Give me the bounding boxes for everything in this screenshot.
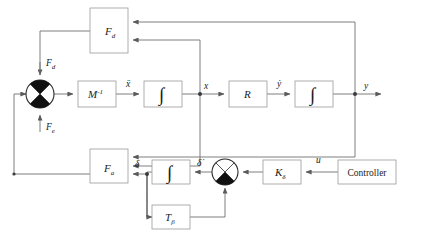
summing-junction-left[interactable] [26,80,54,108]
block-diagram-svg: Fd M-1 ∫ R ∫ [0,0,424,243]
node-dot-x [198,92,202,96]
junction-layer [26,80,238,185]
block-k-delta[interactable]: Kδ [263,160,301,184]
block-t-beta[interactable]: Tβ [152,205,190,229]
signal-label-x: x [203,81,209,91]
block-integrator-2[interactable]: ∫ [295,81,333,107]
block-m-inverse[interactable]: M-1 [78,81,116,107]
node-dot-delta [145,172,149,176]
block-integrator-1[interactable]: ∫ [144,81,182,107]
node-dot-fa-return [12,172,15,175]
block-fd[interactable]: Fd [90,8,128,53]
wire-fd-to-sum [40,31,90,75]
signal-label-u: u [316,155,321,165]
block-r-label: R [243,88,251,100]
signal-label-fd: Fd [45,58,56,71]
node-dot-y [353,92,357,96]
wire-layer [14,22,381,217]
signal-label-delta: δ [135,159,140,169]
block-integrator-3[interactable]: ∫ [152,160,190,185]
summing-junction-right[interactable] [212,159,238,185]
wire-tbeta-to-sum2 [190,188,225,217]
signal-label-fe: Fe [45,122,55,135]
block-controller-label: Controller [347,168,387,178]
signal-label-y-dot: ẏ [276,79,282,89]
block-r[interactable]: R [229,81,267,107]
signal-label-x-ddot: ẍ [125,79,131,89]
block-controller[interactable]: Controller [338,160,396,184]
block-fa[interactable]: Fa [90,149,128,183]
block-layer: Fd M-1 ∫ R ∫ [78,8,396,229]
block-diagram-canvas: Fd M-1 ∫ R ∫ [0,0,424,243]
signal-label-delta-dot: δ̇ [197,158,204,168]
signal-label-y: y [363,81,369,91]
